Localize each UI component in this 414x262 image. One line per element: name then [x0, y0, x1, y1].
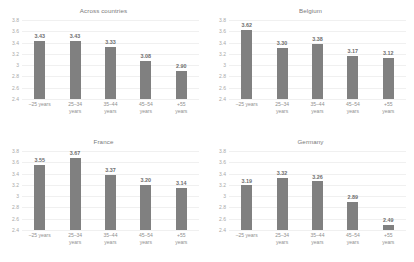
bar-value-label: 3.26 [312, 175, 323, 180]
gridline: 2.4 [22, 99, 199, 100]
bar[interactable]: 3.62 [241, 30, 252, 99]
bar[interactable]: 3.30 [277, 48, 288, 99]
bar-slot: 2.90 [164, 20, 199, 99]
bar-value-label: 2.89 [348, 195, 359, 200]
bar-slot: 3.43 [22, 20, 57, 99]
bar[interactable]: 3.67 [70, 158, 81, 230]
bar-series: 3.553.673.373.203.14 [22, 151, 199, 230]
bar-value-label: 3.62 [241, 23, 252, 28]
gridline: 2.4 [22, 230, 199, 231]
panel-title: Germany [207, 138, 414, 145]
y-axis-tick-label: 2.4 [12, 228, 19, 233]
bar-value-label: 3.37 [105, 168, 116, 173]
bar[interactable]: 3.55 [34, 165, 45, 230]
bar-series: 3.433.433.333.082.90 [22, 20, 199, 99]
chart-panel: Across countries3.83.63.43.232.82.62.43.… [0, 0, 207, 131]
gridline: 2.4 [229, 230, 406, 231]
bar-value-label: 3.33 [105, 40, 116, 45]
x-axis-tick-label: 45–54 years [129, 232, 164, 258]
bar[interactable]: 3.26 [312, 181, 323, 230]
bar-slot: 3.20 [129, 151, 164, 230]
bar-value-label: 3.43 [70, 34, 81, 39]
y-axis-tick-label: 2.6 [12, 216, 19, 221]
bar-slot: 3.12 [371, 20, 406, 99]
x-axis: –25 years25–34 years35–44 years45–54 yea… [22, 101, 199, 127]
bar-series: 3.193.323.262.892.49 [229, 151, 406, 230]
plot-area: 3.83.63.43.232.82.62.43.193.323.262.892.… [229, 151, 406, 230]
bar[interactable]: 3.33 [105, 47, 116, 99]
plot-area: 3.83.63.43.232.82.62.43.623.303.383.173.… [229, 20, 406, 99]
y-axis-tick-label: 3.8 [219, 18, 226, 23]
y-axis-tick-label: 3 [223, 194, 226, 199]
bar-slot: 3.55 [22, 151, 57, 230]
y-axis-tick-label: 3.4 [12, 40, 19, 45]
bar[interactable]: 3.43 [70, 41, 81, 99]
bar[interactable]: 2.49 [383, 225, 394, 230]
bar[interactable]: 3.17 [347, 56, 358, 99]
y-axis-tick-label: 2.8 [219, 74, 226, 79]
x-axis-tick-label: +55 years [164, 232, 199, 258]
bar-slot: 3.43 [58, 20, 93, 99]
bar-value-label: 3.38 [312, 37, 323, 42]
bar[interactable]: 3.37 [105, 175, 116, 230]
y-axis-tick-label: 2.8 [12, 74, 19, 79]
bar-slot: 3.08 [129, 20, 164, 99]
bar[interactable]: 3.43 [34, 41, 45, 99]
y-axis-tick-label: 3.6 [12, 160, 19, 165]
x-axis-tick-label: 35–44 years [93, 232, 128, 258]
y-axis-tick-label: 2.6 [219, 85, 226, 90]
gridline: 2.4 [229, 99, 406, 100]
y-axis-tick-label: 3.6 [219, 29, 226, 34]
bar-slot: 3.30 [265, 20, 300, 99]
bar[interactable]: 3.12 [383, 58, 394, 99]
bar-value-label: 2.90 [176, 64, 187, 69]
x-axis-tick-label: 45–54 years [336, 232, 371, 258]
x-axis-tick-label: –25 years [22, 232, 57, 258]
plot-area: 3.83.63.43.232.82.62.43.433.433.333.082.… [22, 20, 199, 99]
bar-slot: 3.17 [336, 20, 371, 99]
bar[interactable]: 3.20 [140, 185, 151, 230]
panel-title: Belgium [207, 7, 414, 14]
y-axis-tick-label: 2.4 [219, 228, 226, 233]
bar-slot: 3.37 [93, 151, 128, 230]
y-axis-tick-label: 3.2 [219, 51, 226, 56]
y-axis-tick-label: 3.6 [219, 160, 226, 165]
bar[interactable]: 3.08 [140, 61, 151, 99]
x-axis: –25 years25–34 years35–44 years45–54 yea… [22, 232, 199, 258]
bar-value-label: 3.17 [348, 49, 359, 54]
chart-panel: Germany3.83.63.43.232.82.62.43.193.323.2… [207, 131, 414, 262]
bar[interactable]: 3.38 [312, 44, 323, 99]
bar[interactable]: 3.19 [241, 185, 252, 230]
bar-slot: 3.14 [164, 151, 199, 230]
x-axis: –25 years25–34 years35–44 years45–54 yea… [229, 101, 406, 127]
bar-value-label: 3.14 [176, 181, 187, 186]
bar-slot: 2.89 [336, 151, 371, 230]
bar-slot: 3.32 [265, 151, 300, 230]
x-axis-tick-label: 35–44 years [93, 101, 128, 127]
y-axis-tick-label: 3.2 [12, 51, 19, 56]
bar-value-label: 3.43 [34, 34, 45, 39]
y-axis-tick-label: 3.4 [219, 40, 226, 45]
bar[interactable]: 2.89 [347, 202, 358, 230]
x-axis-tick-label: 25–34 years [265, 232, 300, 258]
x-axis-tick-label: 25–34 years [58, 101, 93, 127]
y-axis-tick-label: 2.6 [12, 85, 19, 90]
x-axis-tick-label: +55 years [371, 101, 406, 127]
bar-slot: 3.67 [58, 151, 93, 230]
x-axis-tick-label: –25 years [229, 232, 264, 258]
bar-value-label: 3.30 [277, 41, 288, 46]
bar[interactable]: 3.32 [277, 178, 288, 230]
chart-panel-grid: Across countries3.83.63.43.232.82.62.43.… [0, 0, 414, 262]
bar-value-label: 2.49 [383, 218, 394, 223]
chart-panel: Belgium3.83.63.43.232.82.62.43.623.303.3… [207, 0, 414, 131]
bar-series: 3.623.303.383.173.12 [229, 20, 406, 99]
x-axis-tick-label: 45–54 years [336, 101, 371, 127]
panel-title: Across countries [0, 7, 207, 14]
x-axis-tick-label: +55 years [371, 232, 406, 258]
bar-value-label: 3.19 [241, 179, 252, 184]
bar-value-label: 3.20 [141, 178, 152, 183]
bar[interactable]: 2.90 [176, 71, 187, 99]
bar[interactable]: 3.14 [176, 188, 187, 230]
y-axis-tick-label: 3 [223, 63, 226, 68]
x-axis-tick-label: –25 years [229, 101, 264, 127]
